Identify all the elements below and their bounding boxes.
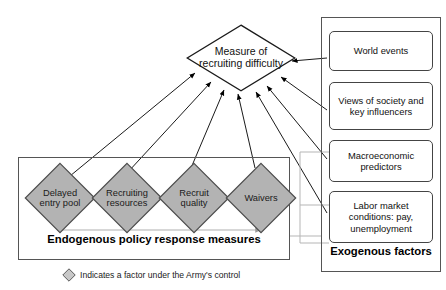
arrow-macroeconomic-predictors-to-measure	[267, 86, 327, 159]
node-label: Measure of recruiting difficulty	[186, 24, 296, 92]
node-delayed-entry-pool[interactable]: Delayed entry pool	[24, 162, 96, 234]
node-measure-of-recruiting-difficulty[interactable]: Measure of recruiting difficulty	[186, 24, 296, 92]
node-label: Delayed entry pool	[24, 162, 96, 234]
node-waivers[interactable]: Waivers	[225, 162, 297, 234]
diagram-canvas: Measure of recruiting difficulty Delayed…	[0, 0, 446, 290]
node-label: Waivers	[225, 162, 297, 234]
node-labor-market-conditions[interactable]: Labor market conditions: pay, unemployme…	[329, 191, 433, 243]
node-world-events[interactable]: World events	[329, 31, 433, 71]
diamond-shape-icon	[62, 268, 76, 282]
legend: Indicates a factor under the Army's cont…	[62, 268, 240, 282]
endogenous-group-caption: Endogenous policy response measures	[22, 233, 286, 245]
node-views-of-society-and-key-influencers[interactable]: Views of society and key influencers	[329, 82, 433, 130]
legend-label: Indicates a factor under the Army's cont…	[80, 270, 240, 280]
node-label: Recruit quality	[158, 162, 230, 234]
node-recruit-quality[interactable]: Recruit quality	[158, 162, 230, 234]
node-macroeconomic-predictors[interactable]: Macroeconomic predictors	[329, 140, 433, 182]
exogenous-group-caption: Exogenous factors	[327, 245, 435, 258]
node-recruiting-resources[interactable]: Recruiting resources	[91, 162, 163, 234]
node-label: Recruiting resources	[91, 162, 163, 234]
legend-diamond-icon	[62, 268, 76, 282]
